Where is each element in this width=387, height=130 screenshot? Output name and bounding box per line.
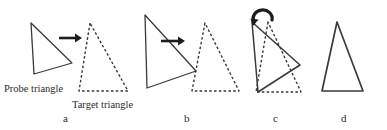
probe-triangle-rotated-c (252, 22, 300, 92)
figure-canvas (0, 0, 387, 130)
target-triangle-label: Target triangle (72, 100, 133, 111)
straight-arrow-b (161, 37, 185, 46)
figure-container: Probe triangle Target triangle a b c d (0, 0, 387, 130)
panel-letter-c: c (273, 113, 278, 124)
rotation-arrow-c (251, 10, 273, 26)
panel-letter-b: b (184, 113, 190, 124)
panel-letter-a: a (63, 113, 68, 124)
target-triangle-b (192, 23, 239, 91)
probe-triangle-a (31, 23, 72, 74)
target-triangle-a (79, 23, 128, 91)
panel-d (322, 22, 363, 91)
panel-c (251, 10, 302, 92)
matched-triangle-d (322, 22, 363, 91)
panel-a (31, 23, 128, 91)
probe-triangle-label: Probe triangle (4, 84, 63, 95)
panel-letter-d: d (341, 113, 347, 124)
panel-b (145, 15, 239, 91)
straight-arrow-a (59, 34, 82, 43)
probe-triangle-b (145, 15, 196, 88)
